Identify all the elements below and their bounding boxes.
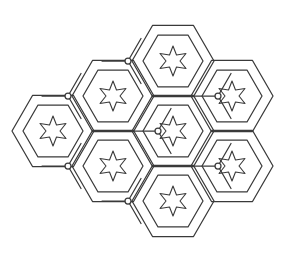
y-junction-node bbox=[125, 198, 131, 204]
y-junction-node bbox=[65, 163, 71, 169]
y-junction-node bbox=[65, 93, 71, 99]
y-junction-node bbox=[215, 163, 221, 169]
coloring-page-canvas: Hexagon Star Mandala Coloring Page Black… bbox=[0, 0, 304, 265]
page-background bbox=[0, 0, 304, 265]
y-junction-node bbox=[155, 128, 161, 134]
y-junction-node bbox=[215, 93, 221, 99]
y-junction-node bbox=[125, 58, 131, 64]
line-art-illustration: Hexagon Star Mandala Coloring Page Black… bbox=[0, 0, 304, 265]
